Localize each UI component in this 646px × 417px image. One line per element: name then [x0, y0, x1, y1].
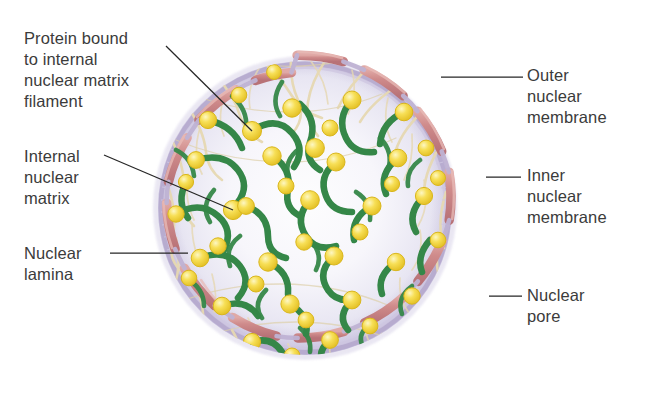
protein-sphere	[263, 147, 281, 165]
protein-sphere	[343, 291, 361, 309]
protein-sphere	[181, 270, 197, 286]
protein-sphere	[259, 253, 277, 271]
protein-sphere	[430, 232, 446, 248]
protein-sphere	[418, 140, 434, 156]
protein-sphere	[188, 152, 205, 169]
protein-sphere	[431, 171, 446, 186]
protein-sphere	[278, 178, 294, 194]
protein-sphere	[199, 111, 216, 128]
protein-sphere	[384, 176, 399, 191]
protein-sphere	[191, 249, 209, 267]
protein-sphere	[395, 103, 413, 121]
label-inner-nuclear-membrane: Inner nuclear membrane	[527, 165, 607, 228]
protein-sphere	[296, 234, 312, 250]
protein-sphere	[238, 198, 255, 215]
protein-sphere	[248, 276, 264, 292]
protein-sphere	[298, 312, 314, 328]
protein-sphere	[325, 247, 343, 265]
protein-sphere	[301, 191, 320, 210]
protein-sphere	[306, 139, 325, 158]
label-nuclear-pore: Nuclear pore	[527, 285, 585, 327]
protein-sphere	[352, 224, 368, 240]
protein-sphere	[281, 295, 299, 313]
protein-sphere	[322, 120, 338, 136]
label-internal-nuclear-matrix: Internal nuclear matrix	[24, 146, 80, 209]
protein-sphere	[387, 253, 404, 270]
label-protein-bound: Protein bound to internal nuclear matrix…	[24, 28, 129, 112]
protein-sphere	[210, 238, 226, 254]
protein-sphere	[343, 91, 361, 109]
protein-sphere	[415, 187, 432, 204]
protein-sphere	[362, 318, 378, 334]
protein-sphere	[213, 297, 231, 315]
protein-sphere	[363, 197, 381, 215]
protein-sphere	[283, 99, 301, 117]
label-nuclear-lamina: Nuclear lamina	[24, 243, 82, 285]
label-outer-nuclear-membrane: Outer nuclear membrane	[527, 65, 607, 128]
protein-sphere	[389, 149, 407, 167]
protein-sphere	[168, 206, 184, 222]
protein-sphere	[404, 288, 420, 304]
protein-sphere	[267, 65, 282, 80]
protein-sphere	[322, 332, 339, 349]
protein-sphere	[327, 153, 345, 171]
protein-sphere	[231, 87, 247, 103]
